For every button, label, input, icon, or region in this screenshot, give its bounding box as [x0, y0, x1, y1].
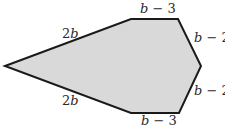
- side-label-bottom: b − 3: [141, 113, 177, 127]
- side-label-upper-right: b − 2: [194, 30, 225, 45]
- side-label-lower-right: b − 2: [194, 83, 225, 98]
- hexagon-shape: [5, 19, 201, 113]
- side-label-top: b − 3: [140, 1, 176, 16]
- hexagon-diagram: 2b b − 3 b − 2 b − 2 b − 3 2b: [0, 0, 225, 127]
- side-label-lower-left: 2b: [62, 93, 79, 108]
- side-label-upper-left: 2b: [62, 26, 79, 41]
